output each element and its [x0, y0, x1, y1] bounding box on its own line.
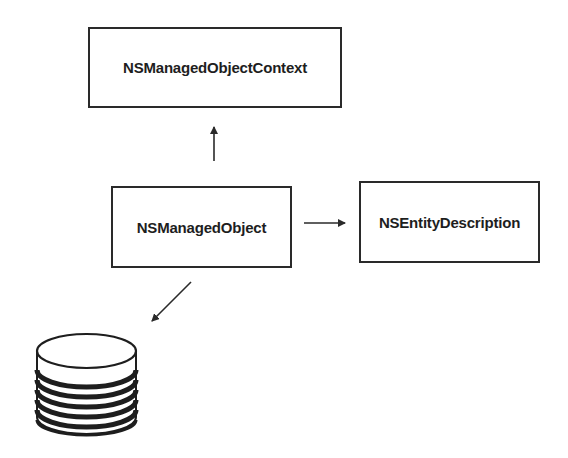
arrow-down-left-to-store — [152, 282, 191, 321]
diagram-connectors — [0, 0, 568, 458]
database-icon — [37, 334, 136, 435]
